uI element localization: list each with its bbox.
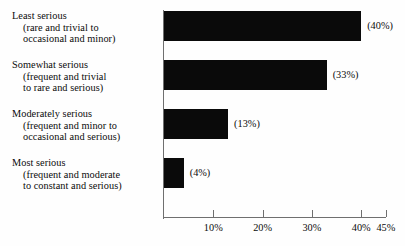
x-axis-tick-mark [386, 210, 387, 217]
category-label-line-3: occasional and serious) [12, 131, 160, 143]
x-axis-tick-label: 45% [376, 222, 395, 234]
category-label-line-3: occasional and minor) [12, 33, 160, 45]
category-label-line-2: (frequent and minor to [12, 120, 160, 132]
category-label-line-2: (frequent and trivial [12, 71, 160, 83]
plot-area: (40%) (33%) (13%) (4%) 10%20%30%40%45% [163, 8, 405, 246]
bar-moderately-serious [164, 109, 228, 139]
x-axis-tick-mark [213, 210, 214, 217]
category-label-most-serious: Most serious (frequent and moderate to c… [12, 157, 160, 192]
bar-chart: Least serious (rare and trivial to occas… [0, 0, 405, 246]
bar-somewhat-serious [164, 60, 327, 90]
category-label-least-serious: Least serious (rare and trivial to occas… [12, 10, 160, 45]
x-axis-tick-mark [312, 210, 313, 217]
category-label-line-1: Moderately serious [12, 108, 160, 120]
category-label-somewhat-serious: Somewhat serious (frequent and trivial t… [12, 59, 160, 94]
x-axis-tick-mark [361, 210, 362, 217]
x-axis-tick-mark [263, 210, 264, 217]
bar-value-moderately-serious: (13%) [234, 118, 260, 130]
x-axis-tick-label: 10% [204, 222, 223, 234]
bar-most-serious [164, 158, 184, 188]
category-label-line-1: Least serious [12, 10, 160, 22]
x-axis-line [163, 217, 386, 218]
bar-value-least-serious: (40%) [367, 20, 393, 32]
category-label-line-2: (rare and trivial to [12, 22, 160, 34]
x-axis-tick-label: 40% [352, 222, 371, 234]
category-label-line-1: Most serious [12, 157, 160, 169]
bar-value-somewhat-serious: (33%) [333, 69, 359, 81]
bar-value-most-serious: (4%) [190, 167, 211, 179]
category-label-line-3: to rare and serious) [12, 82, 160, 94]
category-label-line-2: (frequent and moderate [12, 169, 160, 181]
category-label-moderately-serious: Moderately serious (frequent and minor t… [12, 108, 160, 143]
bar-least-serious [164, 11, 361, 41]
x-axis-tick-label: 20% [253, 222, 272, 234]
category-label-line-1: Somewhat serious [12, 59, 160, 71]
category-label-line-3: to constant and serious) [12, 180, 160, 192]
x-axis-tick-label: 30% [302, 222, 321, 234]
